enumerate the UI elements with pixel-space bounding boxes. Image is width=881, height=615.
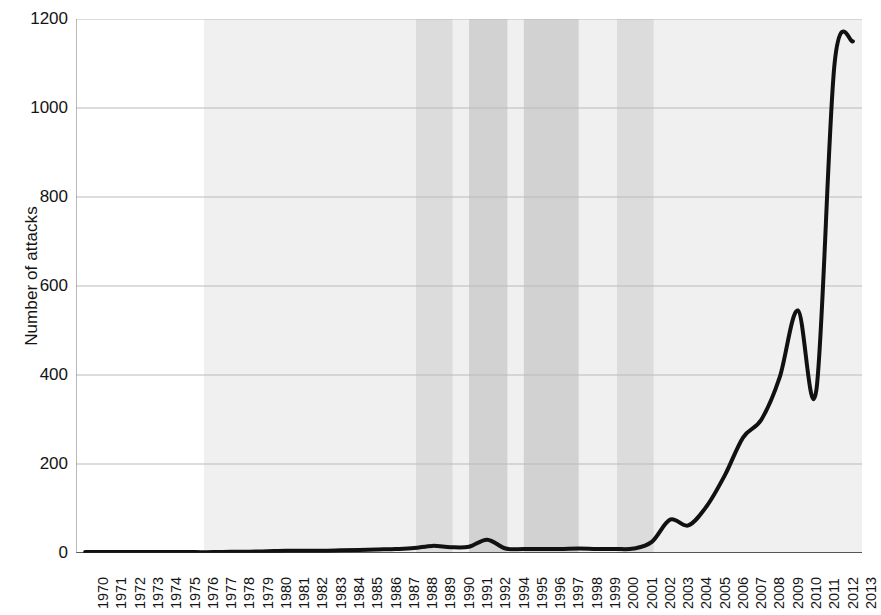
x-tick-label-2013: 2013 [863, 593, 881, 609]
y-tick-label-0: 0 [0, 544, 68, 561]
y-tick-label-800: 800 [0, 188, 68, 205]
y-tick-label-200: 200 [0, 455, 68, 472]
y-tick-label-1200: 1200 [0, 10, 68, 27]
y-tick-label-1000: 1000 [0, 99, 68, 116]
x-axis-tick-labels: 1970197119721973197419751976197719781979… [76, 557, 862, 615]
y-tick-label-400: 400 [0, 366, 68, 383]
y-tick-label-600: 600 [0, 277, 68, 294]
plot-area [76, 19, 862, 553]
plot-svg [76, 19, 862, 553]
